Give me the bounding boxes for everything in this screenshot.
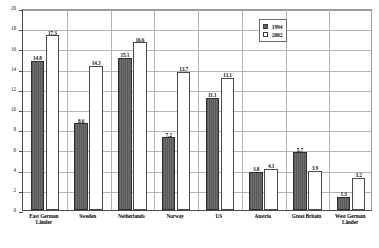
bar-group: 8.614.3 — [67, 10, 111, 210]
bar-group: 7.213.7 — [154, 10, 198, 210]
bar-value-label: 13.1 — [223, 72, 232, 78]
bar-1994: 8.6 — [74, 123, 88, 210]
y-axis-tick-label: 6 — [0, 148, 16, 153]
bar-group: 15.116.6 — [111, 10, 155, 210]
bar-2002: 13.7 — [177, 72, 191, 210]
x-axis-label: Netherlands — [110, 213, 154, 219]
bar-value-label: 8.6 — [78, 118, 84, 124]
bar-value-label: 3.8 — [253, 166, 259, 172]
y-axis-tick-label: 18 — [0, 26, 16, 31]
y-axis-tick-label: 4 — [0, 168, 16, 173]
x-axis-label: East German Länder — [22, 213, 66, 226]
bar-2002: 16.6 — [133, 42, 147, 210]
bar-1994: 3.8 — [249, 172, 263, 210]
y-axis-tick-label: 16 — [0, 47, 16, 52]
legend-item-2002: 2002 — [263, 31, 282, 39]
bar-value-label: 14.8 — [33, 55, 42, 61]
bar-1994: 15.1 — [118, 58, 132, 211]
bar-value-label: 17.3 — [48, 30, 57, 36]
y-axis-tick-label: 10 — [0, 107, 16, 112]
bar-1994: 5.7 — [293, 152, 307, 210]
legend-swatch-empty-square-icon — [263, 32, 268, 37]
bar-1994: 1.3 — [337, 197, 351, 210]
x-axis-category-labels: East German LänderSwedenNetherlandsNorwa… — [22, 213, 372, 246]
x-axis-label: Great Britain — [285, 213, 329, 219]
plot-area: 14.817.38.614.315.116.67.213.711.113.13.… — [22, 9, 372, 211]
bar-chart: 14.817.38.614.315.116.67.213.711.113.13.… — [0, 0, 379, 248]
legend-item-1994: 1994 — [263, 23, 282, 31]
bar-group: 1.33.2 — [329, 10, 373, 210]
bar-2002: 14.3 — [89, 66, 103, 210]
bar-2002: 17.3 — [46, 35, 60, 210]
bar-value-label: 3.9 — [312, 165, 318, 171]
x-axis-label: Austria — [241, 213, 285, 219]
bar-value-label: 11.1 — [208, 92, 217, 98]
chart-legend: 1994 2002 — [259, 19, 287, 42]
x-axis-label: US — [197, 213, 241, 219]
y-axis-tick-label: 14 — [0, 67, 16, 72]
y-axis-tick-label: 2 — [0, 188, 16, 193]
bar-groups: 14.817.38.614.315.116.67.213.711.113.13.… — [23, 10, 371, 210]
bar-group: 14.817.3 — [23, 10, 67, 210]
bar-2002: 13.1 — [221, 78, 235, 210]
y-axis-tick-label: 12 — [0, 87, 16, 92]
x-axis-label: West German Länder — [328, 213, 372, 226]
legend-swatch-filled-square-icon — [263, 24, 268, 29]
x-axis-label: Norway — [153, 213, 197, 219]
bar-value-label: 3.2 — [355, 172, 361, 178]
bar-value-label: 5.7 — [297, 147, 303, 153]
bar-1994: 7.2 — [162, 137, 176, 210]
bar-2002: 4.1 — [264, 169, 278, 210]
legend-label-2002: 2002 — [272, 32, 283, 38]
bar-1994: 11.1 — [206, 98, 220, 210]
bar-value-label: 16.6 — [135, 37, 144, 43]
bar-2002: 3.2 — [352, 178, 366, 210]
bar-value-label: 14.3 — [92, 60, 101, 66]
y-axis-tick-label: 8 — [0, 127, 16, 132]
bar-value-label: 13.7 — [179, 66, 188, 72]
x-axis-label: Sweden — [66, 213, 110, 219]
bar-value-label: 7.2 — [165, 132, 171, 138]
bar-value-label: 4.1 — [268, 163, 274, 169]
bar-group: 5.73.9 — [286, 10, 330, 210]
bar-group: 11.113.1 — [198, 10, 242, 210]
y-axis-tick-label: 0 — [0, 208, 16, 213]
bar-value-label: 1.3 — [340, 191, 346, 197]
bar-2002: 3.9 — [308, 171, 322, 210]
bar-value-label: 15.1 — [120, 52, 129, 58]
bar-1994: 14.8 — [31, 61, 45, 210]
y-axis-tick-label: 20 — [0, 6, 16, 11]
legend-label-1994: 1994 — [272, 24, 283, 30]
